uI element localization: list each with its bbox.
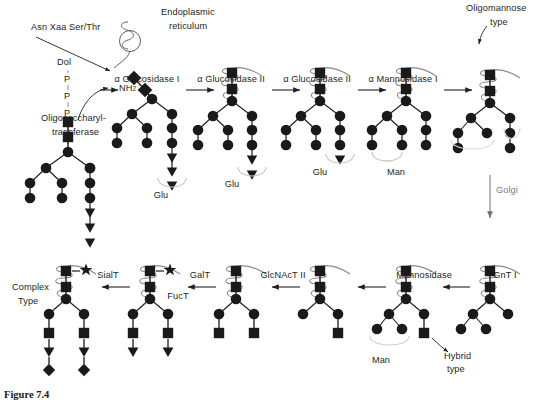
dolichol-linked-precursor (25, 70, 96, 248)
glycan-complex-type (43, 263, 96, 376)
phosphate-label-2: P (64, 91, 70, 102)
hybrid-type-label-line1: Hybrid (444, 351, 471, 362)
enzyme-label-b1: Mannosidase (396, 270, 452, 281)
released-sugar-label-2: Glu (313, 167, 328, 178)
enzyme-label-2: α Glucosidase II (283, 74, 351, 85)
ost-label-line1: Oligosaccharyl- (41, 113, 106, 124)
glycan-oligomannose (451, 70, 520, 154)
oligomannose-pointer (479, 26, 487, 44)
glycan-sialt-substrate (128, 263, 180, 357)
ost-label-line2: transferase (52, 127, 99, 138)
figure-caption: Figure 7.4 (4, 389, 49, 400)
phosphate-label-1: P (64, 74, 70, 85)
enzyme-label-3: α Mannosidase I (368, 74, 437, 85)
sequon-pointer (36, 37, 110, 71)
enzyme-label-b5: SialT (97, 270, 118, 281)
nh2-subscript: 2 (132, 85, 136, 92)
released-sugar-label-3: Man (387, 167, 405, 178)
enzyme-label-1: α Glucosidase II (197, 74, 265, 85)
oligomannose-label-line1: Oligomannose (466, 3, 526, 14)
complex-type-label-line2: Type (18, 296, 38, 307)
er-membrane-icon (114, 22, 141, 68)
released-sugar-label-0: Glu (154, 190, 169, 201)
released-sugar-label-4: Man (372, 355, 390, 366)
golgi-label: Golgi (496, 185, 518, 196)
er-label-line1: Endoplasmic (161, 7, 215, 18)
enzyme-label-b4: FucT (167, 291, 188, 302)
release-bracket (372, 152, 402, 161)
release-bracket (370, 336, 409, 345)
hybrid-type-label-line2: type (447, 364, 465, 375)
complex-type-label-line1: Complex (12, 282, 49, 293)
glycosylation-pathway-figure: Asn Xaa Ser/Thr Endoplasmic reticulum Do… (0, 0, 533, 410)
oligomannose-label-line2: type (490, 17, 508, 28)
sequon-label: Asn Xaa Ser/Thr (31, 22, 100, 33)
dol-label: Dol (57, 57, 71, 68)
enzyme-label-0: α Glucosidase I (114, 74, 179, 85)
enzyme-label-b3: GalT (190, 270, 210, 281)
hybrid-pointer (432, 338, 448, 352)
released-sugar-label-1: Glu (225, 179, 240, 190)
er-label-line2: reticulum (169, 21, 207, 32)
enzyme-label-b0: GnT I (493, 270, 516, 281)
enzyme-label-b2: GlcNAcT II (260, 270, 305, 281)
pathway-diagram (0, 0, 533, 410)
glycan-galt-substrate (214, 266, 266, 339)
